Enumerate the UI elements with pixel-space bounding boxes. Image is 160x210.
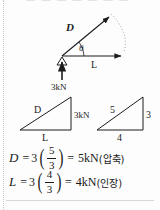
ratio-triangle-vertical-label: 3 [146,109,151,120]
ratio-triangle: 5 3 4 [97,97,151,143]
angle-theta-label: θ [79,43,84,53]
equation-d-result: 5kN [76,151,99,166]
force-triangle-vertical-label: 3kN [74,110,90,120]
equation-d-variable: D [9,150,20,166]
equation-l-equals: = [18,175,29,190]
equation-row-l: L = 3 ( 4 3 ) = 4kN (인장) [9,170,159,194]
equation-l-paren-open: ( [38,172,43,191]
page-canvas: — — — — — — — D θ [0,0,160,210]
equation-l-paren-close: ) [57,172,62,191]
equation-d-paren-open: ( [40,148,45,167]
rotation-arc-dotted [111,14,125,52]
equation-d-paren-close: ) [59,148,64,167]
equation-l-coefficient: 3 [29,175,36,190]
vector-l-label: L [91,59,97,70]
equation-d-equals: = [20,151,31,166]
vector-d-label: D [65,21,74,33]
equation-l-variable: L [9,174,18,190]
equation-d-equals-2: = [65,151,76,166]
equation-l-result: 4kN [74,175,97,190]
force-triangle-outline [20,97,71,130]
equation-d-annotation: (압축) [99,151,125,166]
ratio-triangle-outline [97,97,143,130]
equation-d-coefficient: 3 [31,151,38,166]
equation-l-denominator: 3 [47,184,53,196]
equation-row-d: D = 3 ( 5 3 ) = 5kN (압축) [9,146,159,170]
equation-l-fraction: 4 3 [44,169,55,195]
force-triangle-base-label: L [42,132,48,143]
ratio-triangle-base-label: 4 [117,132,122,143]
force-vector-diagram: D θ L 3kN [51,14,125,92]
equation-block: D = 3 ( 5 3 ) = 5kN (압축) L = 3 ( 4 3 ) [9,146,159,194]
equation-l-annotation: (인장) [96,175,122,190]
force-triangle: D 3kN L [20,97,90,143]
force-triangle-hypotenuse-label: D [34,104,41,115]
equation-l-equals-2: = [63,175,74,190]
equation-l-numerator: 4 [47,169,53,181]
equation-d-numerator: 5 [49,145,55,157]
applied-load-label: 3kN [51,82,67,92]
ratio-triangle-hypotenuse-label: 5 [110,104,115,115]
